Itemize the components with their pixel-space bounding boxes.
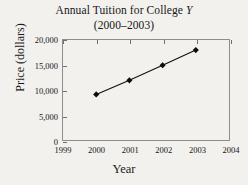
x-tick-mark — [231, 40, 232, 44]
x-tick-label: 2004 — [223, 145, 240, 155]
chart-title: Annual Tuition for College Y — [0, 4, 248, 16]
x-tick-label: 2003 — [189, 145, 206, 155]
chart-figure: Annual Tuition for College Y (2000–2003)… — [0, 0, 248, 185]
data-point-marker — [160, 62, 166, 68]
x-tick-label: 1999 — [55, 145, 72, 155]
plot-area: 05,00010,00015,00020,000 199920002001200… — [62, 39, 230, 141]
chart-subtitle: (2000–2003) — [0, 19, 248, 31]
y-tick-label: 5,000 — [39, 112, 58, 122]
y-tick-label: 10,000 — [35, 86, 58, 96]
series-line — [96, 50, 196, 94]
x-tick-label: 2000 — [88, 145, 105, 155]
x-tick-label: 2002 — [155, 145, 172, 155]
data-series — [63, 40, 229, 141]
chart-title-college-letter: Y — [186, 4, 193, 16]
data-point-marker — [193, 47, 199, 53]
y-tick-mark — [63, 142, 67, 143]
data-point-marker — [93, 91, 99, 97]
x-axis-title: Year — [0, 162, 248, 177]
x-tick-label: 2001 — [122, 145, 139, 155]
y-axis-title: Price (dollars) — [13, 0, 28, 118]
y-tick-label: 15,000 — [35, 61, 58, 71]
data-point-marker — [126, 77, 132, 83]
chart-title-text: Annual Tuition for College — [56, 4, 186, 16]
y-tick-label: 20,000 — [35, 35, 58, 45]
